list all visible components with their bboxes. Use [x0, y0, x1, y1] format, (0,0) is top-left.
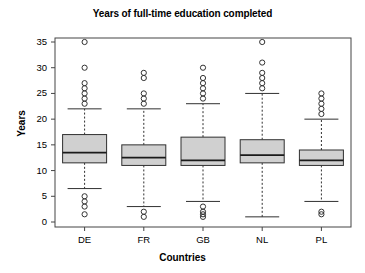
outlier-point [200, 96, 205, 101]
x-tick-label-DE: DE [65, 234, 105, 245]
outlier-point [200, 86, 205, 91]
outlier-point [260, 86, 265, 91]
box [122, 145, 166, 166]
x-tick-label-NL: NL [242, 234, 282, 245]
outlier-point [319, 96, 324, 101]
outlier-point [200, 65, 205, 70]
y-tick-label: 10 [25, 165, 47, 176]
outlier-point [141, 91, 146, 96]
outlier-point [200, 75, 205, 80]
outlier-point [260, 75, 265, 80]
outlier-point [319, 111, 324, 116]
y-tick-label: 35 [25, 36, 47, 47]
x-axis-title: Countries [0, 252, 365, 263]
y-tick-label: 30 [25, 62, 47, 73]
outlier-point [82, 39, 87, 44]
box [299, 150, 343, 165]
outlier-point [82, 212, 87, 217]
outlier-point [82, 81, 87, 86]
box-group-DE [63, 39, 107, 216]
plot-area [0, 0, 365, 273]
box [63, 135, 107, 163]
box [240, 140, 284, 163]
outlier-point [82, 101, 87, 106]
outlier-point [82, 204, 87, 209]
outlier-point [319, 101, 324, 106]
y-tick-label: 0 [25, 216, 47, 227]
outlier-point [319, 106, 324, 111]
outlier-point [200, 204, 205, 209]
x-tick-label-GB: GB [183, 234, 223, 245]
outlier-point [141, 96, 146, 101]
outlier-point [141, 214, 146, 219]
y-tick-label: 25 [25, 87, 47, 98]
x-tick-label-FR: FR [124, 234, 164, 245]
outlier-point [82, 65, 87, 70]
x-tick-label-PL: PL [301, 234, 341, 245]
outlier-point [319, 91, 324, 96]
outlier-point [141, 101, 146, 106]
box-group-GB [181, 65, 225, 219]
outlier-point [82, 194, 87, 199]
outlier-point [82, 199, 87, 204]
outlier-point [141, 70, 146, 75]
outlier-point [141, 75, 146, 80]
boxplot-figure: Years of full-time education completed Y… [0, 0, 365, 273]
outlier-point [141, 209, 146, 214]
outlier-point [260, 70, 265, 75]
outlier-point [260, 60, 265, 65]
box-group-PL [299, 91, 343, 217]
outlier-point [82, 86, 87, 91]
outlier-point [82, 96, 87, 101]
outlier-point [260, 39, 265, 44]
outlier-point [200, 91, 205, 96]
y-tick-label: 15 [25, 139, 47, 150]
chart-title: Years of full-time education completed [0, 8, 365, 19]
box-group-NL [240, 39, 284, 216]
box-group-FR [122, 70, 166, 219]
outlier-point [200, 81, 205, 86]
y-tick-label: 20 [25, 113, 47, 124]
outlier-point [82, 91, 87, 96]
y-tick-label: 5 [25, 190, 47, 201]
outlier-point [260, 81, 265, 86]
